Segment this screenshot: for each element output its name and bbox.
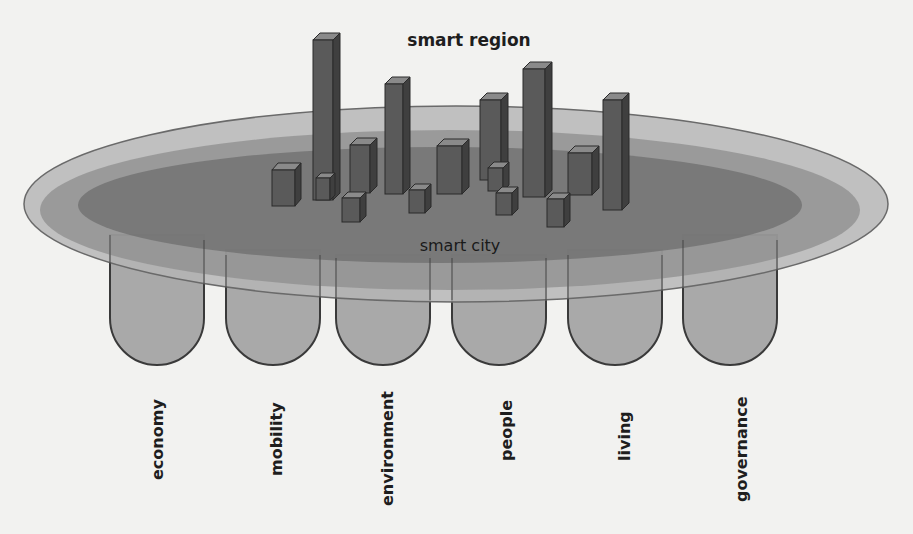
smart-city-title: smart city bbox=[420, 236, 501, 255]
smart-region-title: smart region bbox=[407, 30, 530, 50]
building-block bbox=[272, 163, 301, 206]
building-block bbox=[547, 193, 570, 227]
building-block bbox=[437, 139, 469, 194]
label-mobility: mobility bbox=[267, 402, 286, 476]
smart-city-region-diagram: smart region smart city economy mobility… bbox=[0, 0, 913, 534]
building-block bbox=[316, 173, 335, 200]
label-people: people bbox=[497, 400, 516, 461]
label-governance: governance bbox=[732, 396, 751, 502]
tower bbox=[385, 77, 410, 194]
building-block bbox=[350, 138, 377, 193]
label-living: living bbox=[615, 411, 634, 461]
tower bbox=[523, 62, 552, 197]
building-block bbox=[568, 146, 599, 195]
building-block bbox=[409, 184, 431, 213]
ellipse-layers bbox=[24, 106, 888, 302]
building-block bbox=[496, 187, 518, 215]
tower bbox=[603, 93, 629, 210]
pillar-labels: economy mobility environment people livi… bbox=[148, 391, 751, 506]
label-environment: environment bbox=[378, 391, 397, 506]
label-economy: economy bbox=[148, 399, 167, 480]
building-block bbox=[342, 192, 366, 222]
